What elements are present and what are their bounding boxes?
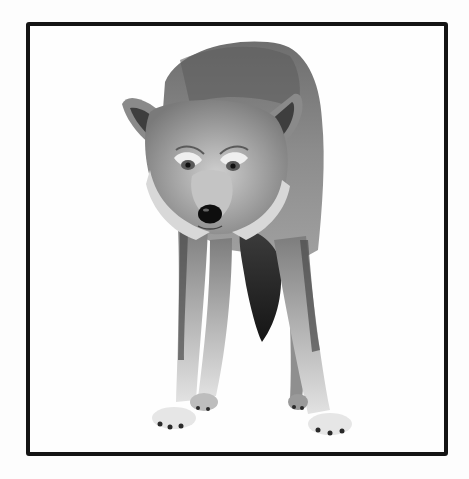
wolf-photo [0, 0, 469, 479]
photo-page: Black-and-white photo of a wolf standing… [0, 0, 469, 479]
wolf-nose [198, 205, 222, 224]
